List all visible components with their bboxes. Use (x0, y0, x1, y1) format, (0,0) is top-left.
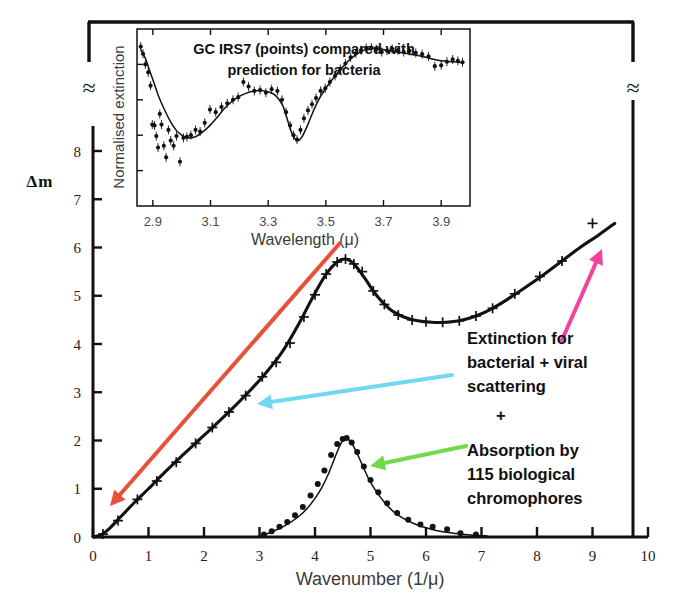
x-tick-label: 6 (422, 548, 430, 564)
figure-root: ≈≈012345678Δm012345678910Wavenumber (1/μ… (0, 0, 684, 608)
inset-dot-marker (208, 107, 212, 111)
dot-marker (417, 521, 423, 527)
dot-marker (334, 441, 340, 447)
inset-x-tick-label: 3.9 (432, 214, 450, 229)
inset-dot-marker (298, 128, 302, 132)
inset-y-axis-title: Normalised extinction (110, 45, 127, 188)
inset-dot-marker (275, 89, 279, 93)
inset-x-tick-label: 2.9 (144, 214, 162, 229)
dot-marker (473, 532, 479, 538)
dot-marker (328, 452, 334, 458)
inset-dot-marker (156, 145, 160, 149)
figure-canvas: ≈≈012345678Δm012345678910Wavenumber (1/μ… (0, 0, 684, 608)
inset-dot-marker (154, 134, 158, 138)
absorption-curve-path (257, 438, 487, 537)
x-axis-title: Wavenumber (1/μ) (296, 569, 445, 589)
y-tick-label: 4 (74, 337, 82, 353)
x-tick-label: 9 (589, 548, 597, 564)
inset-dot-marker (246, 84, 250, 88)
dot-marker (276, 524, 282, 530)
dot-marker (457, 530, 463, 536)
dot-marker (269, 528, 275, 534)
x-axis: 012345678910 (89, 527, 655, 564)
dot-marker (405, 517, 411, 523)
dot-marker (315, 481, 321, 487)
inset-dot-marker (152, 123, 156, 127)
dot-marker (321, 467, 327, 473)
inset-dot-marker (241, 80, 245, 84)
y-axis: 012345678 (74, 126, 103, 546)
inset-dot-marker (159, 122, 163, 126)
inset-dot-marker (314, 96, 318, 100)
x-tick-label: 2 (200, 548, 208, 564)
x-tick-label: 4 (311, 548, 319, 564)
inset-dot-marker (407, 49, 411, 53)
inset-dot-marker (439, 63, 443, 67)
cyan-arrow-shaft (269, 375, 452, 402)
extinction-note-line: Extinction for (467, 329, 574, 347)
red-arrow-shaft (118, 243, 340, 497)
inset-dot-marker (169, 138, 173, 142)
inset-x-tick-label: 3.3 (259, 214, 277, 229)
inset-dot-marker (203, 121, 207, 125)
y-tick-label: 1 (74, 481, 82, 497)
inset-plot: 2.93.13.33.53.73.9 (137, 29, 470, 229)
inset-dot-marker (214, 110, 218, 114)
inset-x-axis-title: Wavelength (μ) (251, 231, 359, 248)
extinction-note-line: scattering (467, 377, 546, 395)
inset-dot-marker (302, 116, 306, 120)
green-arrow-head (370, 456, 386, 471)
y-tick-label: 3 (74, 385, 82, 401)
inset-dot-marker (219, 105, 223, 109)
dot-marker (354, 449, 360, 455)
series-absorption-curve (257, 438, 487, 537)
y-tick-label: 6 (74, 240, 82, 256)
dot-marker (394, 510, 400, 516)
inset-dot-marker (162, 144, 166, 148)
inset-dot-marker (270, 87, 274, 91)
inset-dot-marker (166, 128, 170, 132)
cyan-arrow-head (257, 394, 273, 409)
x-tick-label: 0 (89, 548, 97, 564)
dot-marker (292, 512, 298, 518)
y-tick-label: 5 (74, 288, 82, 304)
dot-marker (430, 524, 436, 530)
dot-marker (368, 477, 374, 483)
x-tick-label: 8 (533, 548, 541, 564)
inset-dot-marker (310, 102, 314, 106)
absorption-note-line: 115 biological (467, 465, 575, 483)
inset-dot-marker (306, 108, 310, 112)
y-axis-title: Δm (27, 172, 54, 191)
inset-dot-marker (178, 160, 182, 164)
dot-marker (300, 504, 306, 510)
dot-marker (344, 435, 350, 441)
absorption-note-line: Absorption by (467, 441, 580, 459)
dot-marker (261, 532, 267, 538)
inset-dot-marker (319, 89, 323, 93)
dot-marker (375, 489, 381, 495)
axis-break-symbol-left: ≈ (82, 75, 95, 101)
annotation-plus-sign: + (496, 406, 506, 424)
dot-marker (384, 500, 390, 506)
x-tick-label: 7 (478, 548, 486, 564)
inset-dot-marker (172, 144, 176, 148)
y-tick-label: 7 (74, 192, 82, 208)
inset-dot-marker (174, 134, 178, 138)
inset-title-line: prediction for bacteria (227, 62, 381, 78)
inset-dot-marker (148, 84, 152, 88)
inset-dot-marker (193, 128, 197, 132)
dot-marker (349, 439, 355, 445)
y-tick-label: 2 (74, 433, 82, 449)
inset-dot-marker (139, 45, 143, 49)
y-tick-label: 0 (74, 530, 82, 546)
axis-break-symbol-right: ≈ (626, 75, 639, 101)
dot-marker (361, 464, 367, 470)
dot-marker (308, 493, 314, 499)
dot-marker (444, 526, 450, 532)
x-tick-label: 10 (641, 548, 656, 564)
y-tick-label: 8 (74, 144, 82, 160)
inset-dot-marker (158, 112, 162, 116)
absorption-note-line: chromophores (467, 489, 583, 507)
inset-x-tick-label: 3.1 (201, 214, 219, 229)
green-arrow-shaft (382, 446, 466, 463)
